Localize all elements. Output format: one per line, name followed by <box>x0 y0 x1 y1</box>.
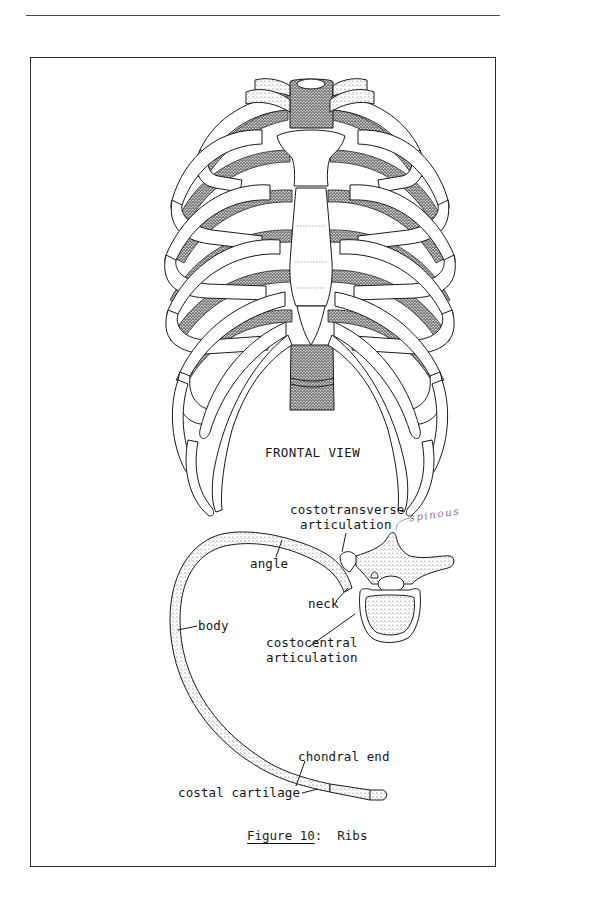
label-neck: neck <box>308 597 339 611</box>
label-costocentral-line2: articulation <box>266 651 358 665</box>
figure-title: Ribs <box>337 828 367 843</box>
label-chondral-end: chondral end <box>298 750 390 764</box>
label-body: body <box>198 619 229 633</box>
handwritten-arrow <box>396 518 410 530</box>
label-angle: angle <box>250 557 288 571</box>
label-costotransverse-line1: costotransverse <box>290 503 404 517</box>
figure-number: Figure 10 <box>247 828 315 843</box>
caption-separator: : <box>315 828 338 843</box>
label-costocentral-line1: costocentral <box>266 636 358 650</box>
figure-caption: Figure 10: Ribs <box>247 828 367 843</box>
label-costal-cartilage: costal cartilage <box>178 786 300 800</box>
label-costotransverse-line2: articulation <box>300 518 392 532</box>
frontal-view-title: FRONTAL VIEW <box>265 446 360 460</box>
